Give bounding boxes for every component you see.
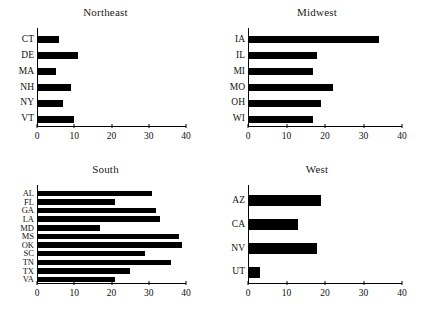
panel-northeast: Northeast CTDEMANHNYVT 010203040: [0, 0, 211, 157]
bar-rows-west: AZCANVUT: [248, 189, 402, 284]
x-tick: [148, 281, 149, 285]
x-tick-label: 10: [282, 130, 292, 142]
x-tick-label: 10: [70, 287, 80, 299]
bar-row: MO: [248, 83, 402, 91]
x-tick: [286, 281, 287, 285]
bar: [37, 36, 59, 43]
bar: [248, 52, 317, 59]
bar-row: MD: [37, 225, 186, 231]
bar-rows-northeast: CTDEMANHNYVT: [37, 32, 186, 127]
bar-row: MA: [37, 68, 186, 76]
x-tick: [74, 124, 75, 128]
bar-row: LA: [37, 216, 186, 222]
x-tick-label: 0: [246, 130, 251, 142]
x-axis-ticks: [37, 281, 186, 285]
bar: [37, 199, 115, 205]
bar-category-label: DE: [21, 51, 34, 61]
bar-category-label: UT: [232, 267, 245, 277]
bar-category-label: WI: [233, 114, 245, 124]
bar-row: NV: [248, 242, 402, 254]
bar: [248, 116, 313, 123]
bar-category-label: OH: [231, 98, 245, 108]
bar-row: SC: [37, 251, 186, 257]
bar: [37, 242, 182, 248]
x-tick-label: 40: [397, 130, 407, 142]
bar-row: VT: [37, 115, 186, 123]
x-tick: [325, 124, 326, 128]
x-tick-label: 0: [35, 287, 40, 299]
bar: [37, 260, 171, 266]
x-tick: [37, 124, 38, 128]
panel-title-west: West: [211, 163, 423, 175]
bar: [37, 68, 56, 75]
bar-chart-figure: Northeast CTDEMANHNYVT 010203040 Midwest…: [0, 0, 423, 314]
x-tick: [186, 124, 187, 128]
bar-row: NY: [37, 99, 186, 107]
x-axis-tick-labels: 010203040: [37, 287, 186, 301]
bar-row: AL: [37, 190, 186, 196]
x-axis-tick-labels: 010203040: [248, 287, 402, 301]
bar: [37, 234, 179, 240]
bar-row: TX: [37, 268, 186, 274]
x-tick: [37, 281, 38, 285]
x-tick-label: 30: [359, 130, 369, 142]
x-tick-label: 40: [181, 287, 191, 299]
bar-category-label: NV: [231, 244, 245, 254]
bar-category-label: CT: [22, 35, 34, 45]
bar-row: TN: [37, 259, 186, 265]
bar: [37, 216, 160, 222]
bar-row: IA: [248, 36, 402, 44]
x-axis-ticks: [37, 124, 186, 128]
x-tick-label: 10: [282, 287, 292, 299]
bar: [248, 84, 333, 91]
x-axis-ticks: [248, 124, 402, 128]
bar-category-label: NH: [20, 83, 34, 93]
bar: [37, 191, 152, 197]
x-tick-label: 20: [107, 287, 117, 299]
x-tick: [363, 124, 364, 128]
bar-row: DE: [37, 52, 186, 60]
x-tick: [74, 281, 75, 285]
bar-category-label: IL: [236, 51, 245, 61]
panel-title-south: South: [0, 163, 211, 175]
bar: [37, 251, 145, 257]
x-tick: [402, 124, 403, 128]
bar-row: OH: [248, 99, 402, 107]
bar-row: OK: [37, 242, 186, 248]
x-tick-label: 20: [107, 130, 117, 142]
bar: [248, 68, 313, 75]
bar-row: CA: [248, 219, 402, 231]
x-axis-tick-labels: 010203040: [248, 130, 402, 144]
bar: [37, 268, 130, 274]
x-tick: [248, 281, 249, 285]
bar-category-label: MO: [230, 83, 245, 93]
bar-rows-midwest: IAILMIMOOHWI: [248, 32, 402, 127]
plot-area-northeast: CTDEMANHNYVT 010203040: [37, 32, 186, 127]
bar-row: MS: [37, 233, 186, 239]
x-tick-label: 30: [144, 287, 154, 299]
bar-row: IL: [248, 52, 402, 60]
panel-title-midwest: Midwest: [211, 6, 423, 18]
plot-area-midwest: IAILMIMOOHWI 010203040: [248, 32, 402, 127]
x-tick-label: 0: [246, 287, 251, 299]
x-tick: [148, 124, 149, 128]
x-tick-label: 20: [320, 130, 330, 142]
plot-area-west: AZCANVUT 010203040: [248, 189, 402, 284]
bar-category-label: MI: [233, 67, 245, 77]
x-tick: [111, 124, 112, 128]
x-axis-ticks: [248, 281, 402, 285]
bar-row: GA: [37, 208, 186, 214]
bar-rows-south: ALFLGALAMDMSOKSCTNTXVA: [37, 189, 186, 284]
bar: [248, 267, 260, 278]
bar-row: UT: [248, 266, 402, 278]
bar-category-label: MA: [19, 67, 34, 77]
bar-category-label: IA: [235, 35, 245, 45]
x-axis-tick-labels: 010203040: [37, 130, 186, 144]
x-tick: [325, 281, 326, 285]
panel-west: West AZCANVUT 010203040: [211, 157, 423, 314]
bar-row: WI: [248, 115, 402, 123]
bar: [37, 100, 63, 107]
panel-south: South ALFLGALAMDMSOKSCTNTXVA 010203040: [0, 157, 211, 314]
x-tick-label: 40: [181, 130, 191, 142]
bar: [37, 52, 78, 59]
